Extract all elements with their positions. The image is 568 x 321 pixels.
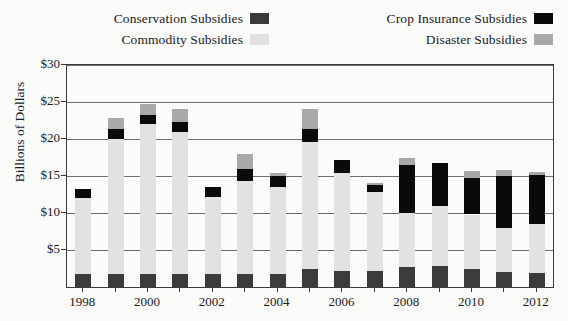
bar-segment (496, 176, 512, 228)
bar-segment (399, 267, 415, 287)
bar-segment (172, 109, 188, 122)
y-tick-label: $5 (12, 241, 60, 257)
bar-segment (432, 206, 448, 266)
bar-segment (270, 274, 286, 287)
plot-area (66, 64, 554, 288)
bar-segment (399, 213, 415, 267)
y-tick-label: $20 (12, 130, 60, 146)
bar-segment (172, 132, 188, 275)
x-tick-label: 2000 (123, 294, 171, 310)
bar-segment (496, 228, 512, 272)
bar-segment (302, 142, 318, 269)
bar-segment (270, 173, 286, 176)
x-tick-mark (212, 287, 213, 292)
y-tick-label: $25 (12, 93, 60, 109)
bar-segment (75, 189, 91, 199)
legend-label-conservation: Conservation Subsidies (114, 11, 243, 27)
table-row (75, 65, 91, 287)
table-row (270, 65, 286, 287)
table-row (172, 65, 188, 287)
x-tick-mark (406, 287, 407, 292)
x-tick-label: 2006 (317, 294, 365, 310)
bar-segment (205, 197, 221, 275)
bar-segment (496, 170, 512, 176)
bar-segment (237, 274, 253, 287)
chart-legend: Conservation Subsidies Crop Insurance Su… (0, 8, 568, 52)
bar-segment (140, 274, 156, 287)
x-tick-mark (115, 287, 116, 292)
bar-segment (367, 183, 383, 184)
bar-segment (140, 104, 156, 115)
x-tick-mark (277, 287, 278, 292)
bar-segment (237, 169, 253, 182)
x-tick-mark (244, 287, 245, 292)
x-tick-label: 2010 (447, 294, 495, 310)
bar-segment (464, 178, 480, 214)
bars-container (67, 65, 553, 287)
bar-segment (334, 271, 350, 287)
legend-row-2: Commodity Subsidies Disaster Subsidies (0, 29, 568, 50)
bar-segment (367, 185, 383, 192)
bar-segment (237, 181, 253, 274)
x-tick-label: 2002 (188, 294, 236, 310)
bar-segment (334, 173, 350, 271)
bar-segment (302, 269, 318, 287)
x-tick-mark (374, 287, 375, 292)
x-tick-label: 2004 (253, 294, 301, 310)
table-row (496, 65, 512, 287)
legend-label-crop-insurance: Crop Insurance Subsidies (387, 11, 527, 27)
x-tick-mark (147, 287, 148, 292)
bar-segment (75, 274, 91, 287)
bar-segment (237, 154, 253, 169)
legend-swatch-conservation (250, 13, 269, 24)
bar-segment (367, 192, 383, 270)
legend-swatch-crop-insurance (534, 13, 553, 24)
bar-segment (108, 118, 124, 129)
x-tick-label: 2008 (382, 294, 430, 310)
bar-segment (108, 274, 124, 287)
bar-segment (367, 271, 383, 287)
x-tick-label: 2012 (512, 294, 560, 310)
bar-segment (464, 171, 480, 178)
legend-item-crop-insurance: Crop Insurance Subsidies (269, 11, 553, 27)
bar-segment (464, 215, 480, 270)
table-row (334, 65, 350, 287)
bar-segment (172, 122, 188, 132)
y-tick-label: $30 (12, 56, 60, 72)
bar-segment (399, 158, 415, 165)
table-row (302, 65, 318, 287)
table-row (205, 65, 221, 287)
legend-label-disaster: Disaster Subsidies (426, 32, 527, 48)
table-row (237, 65, 253, 287)
y-tick-label: $10 (12, 204, 60, 220)
legend-item-disaster: Disaster Subsidies (269, 32, 553, 48)
bar-chart: Conservation Subsidies Crop Insurance Su… (0, 0, 568, 321)
table-row (367, 65, 383, 287)
bar-segment (529, 224, 545, 273)
x-tick-mark (471, 287, 472, 292)
bar-segment (432, 266, 448, 287)
table-row (432, 65, 448, 287)
legend-label-commodity: Commodity Subsidies (121, 32, 243, 48)
bar-segment (529, 273, 545, 287)
legend-item-conservation: Conservation Subsidies (15, 11, 269, 27)
y-tick-label: $15 (12, 167, 60, 183)
table-row (399, 65, 415, 287)
x-tick-mark (179, 287, 180, 292)
table-row (108, 65, 124, 287)
bar-segment (108, 139, 124, 274)
bar-segment (140, 124, 156, 274)
legend-row-1: Conservation Subsidies Crop Insurance Su… (0, 8, 568, 29)
bar-segment (108, 129, 124, 139)
bar-segment (75, 198, 91, 274)
table-row (529, 65, 545, 287)
legend-item-commodity: Commodity Subsidies (15, 32, 269, 48)
bar-segment (496, 272, 512, 287)
x-tick-mark (536, 287, 537, 292)
bar-segment (302, 109, 318, 129)
table-row (464, 65, 480, 287)
bar-segment (302, 129, 318, 142)
bar-segment (140, 115, 156, 124)
bar-segment (529, 172, 545, 175)
bar-segment (270, 187, 286, 274)
